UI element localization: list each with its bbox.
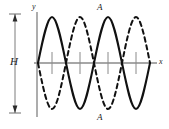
dimension-arrowhead-bottom	[13, 106, 18, 114]
dimension-arrowhead-top	[13, 14, 18, 22]
height-label: H	[10, 56, 18, 67]
amplitude-label-top: A	[97, 3, 103, 12]
wave-diagram: H y x A A	[0, 0, 169, 129]
y-axis-label: y	[32, 3, 36, 11]
x-axis-label: x	[159, 58, 163, 66]
diagram-canvas	[0, 0, 169, 129]
amplitude-label-bottom: A	[97, 113, 103, 122]
